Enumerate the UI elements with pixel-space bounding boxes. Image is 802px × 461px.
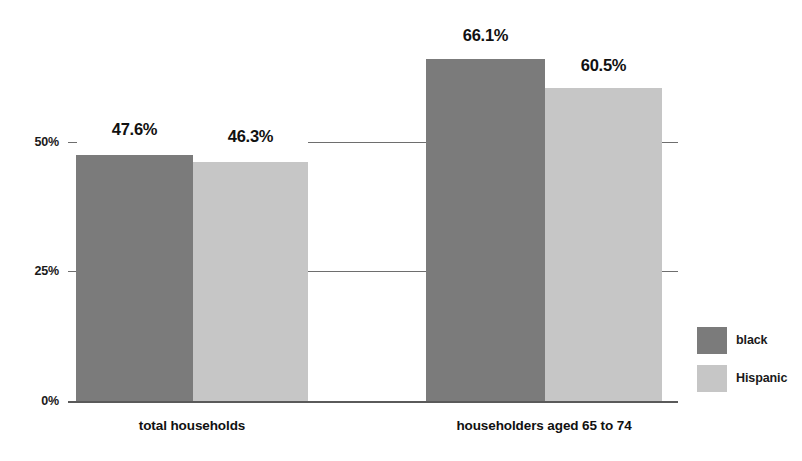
- legend-swatch-hispanic: [697, 365, 727, 392]
- legend-item-hispanic: Hispanic: [697, 363, 787, 393]
- bar-total-households-black: [76, 155, 193, 402]
- legend-label-black: black: [736, 333, 767, 347]
- legend-label-hispanic: Hispanic: [736, 371, 787, 385]
- bar-chart: 50% 25% 0% 47.6% 46.3% 66.1% 60.5% total…: [0, 0, 802, 461]
- bar-value-total-households-black: 47.6%: [76, 120, 193, 139]
- y-tick-mark-right-25: [662, 271, 678, 272]
- bar-aged-65-74-black: [426, 59, 545, 402]
- bar-value-total-households-hispanic: 46.3%: [193, 127, 308, 146]
- y-tick-mark-right-50: [662, 142, 678, 143]
- x-axis-line: [68, 401, 678, 403]
- legend-item-black: black: [697, 325, 787, 355]
- gridline-25-percent: [308, 271, 426, 272]
- y-axis-label-0: 0%: [15, 394, 59, 408]
- bar-value-aged-65-74-black: 66.1%: [426, 26, 545, 45]
- chart-legend: black Hispanic: [697, 325, 787, 401]
- gridline-50-percent: [308, 142, 426, 143]
- bar-aged-65-74-hispanic: [545, 88, 662, 402]
- y-axis-label-25: 25%: [15, 264, 59, 278]
- bar-value-aged-65-74-hispanic: 60.5%: [545, 56, 662, 75]
- y-tick-mark-50: [68, 142, 77, 143]
- y-axis-label-50: 50%: [15, 135, 59, 149]
- x-axis-category-label-1: householders aged 65 to 74: [426, 418, 662, 433]
- legend-swatch-black: [697, 327, 727, 354]
- x-axis-category-label-0: total households: [76, 418, 308, 433]
- bar-total-households-hispanic: [193, 162, 308, 402]
